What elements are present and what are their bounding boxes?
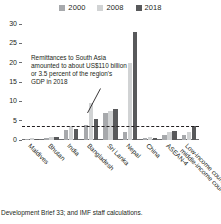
bar-group-china <box>140 24 160 140</box>
y-tick-label-25: 25 <box>9 39 17 47</box>
bar-asean-4-2018 <box>172 131 176 140</box>
bar-low-and-middle-income-2000 <box>182 135 186 140</box>
legend-swatch-2000 <box>59 5 65 11</box>
legend-label-2018: 2018 <box>145 4 162 12</box>
bar-group-low-and-middle-income <box>179 24 199 140</box>
bar-asean-4-2008 <box>167 132 171 140</box>
bar-bhutan-2018 <box>54 137 58 140</box>
x-label-slot-asean-4: ASEAN-4 <box>160 141 180 211</box>
x-label-slot-bhutan: Bhutan <box>42 141 62 211</box>
y-tick-25: 25 <box>0 39 22 47</box>
bar-china-2000 <box>143 138 147 140</box>
legend-swatch-2008 <box>97 5 103 11</box>
y-tick-label-5: 5 <box>13 117 17 125</box>
bar-bhutan-2008 <box>49 137 53 140</box>
chart-legend: 2000 2008 2018 <box>0 4 221 12</box>
annotation-line-4: GDP in 2018 <box>31 78 137 86</box>
bar-low-and-middle-income-2018 <box>192 126 196 140</box>
bar-maldives-2008 <box>30 138 34 140</box>
x-label-slot-low-and-middle-income: Low-income countries andmiddle-income co… <box>179 141 199 211</box>
y-tick-5: 5 <box>0 117 22 125</box>
legend-label-2008: 2008 <box>106 4 123 12</box>
source-note: Development Brief 33; and IMF staff calc… <box>1 209 201 217</box>
chart-annotation: Remittances to South Asia amounted to ab… <box>31 54 137 86</box>
x-label-slot-nepal: Nepal <box>120 141 140 211</box>
y-tick-label-10: 10 <box>9 97 17 105</box>
x-label-slot-china: China <box>140 141 160 211</box>
legend-item-2018: 2018 <box>136 4 162 12</box>
y-tick-10: 10 <box>0 97 22 105</box>
bar-china-2008 <box>148 137 152 140</box>
annotation-line-2: amounted to about US$110 billion <box>31 62 137 70</box>
bar-sri-lanka-2008 <box>108 111 112 140</box>
annotation-line-1: Remittances to South Asia <box>31 54 137 62</box>
bar-nepal-2000 <box>123 132 127 140</box>
x-label-slot-sri-lanka: Sri Lanka <box>101 141 121 211</box>
bar-bhutan-2000 <box>44 138 48 140</box>
x-label-slot-india: India <box>61 141 81 211</box>
y-tick-20: 20 <box>0 59 22 67</box>
x-axis-label-low-and-middle-income: Low-income countries andmiddle-income co… <box>179 142 221 207</box>
y-tick-label-15: 15 <box>9 78 17 86</box>
bar-maldives-2000 <box>25 139 29 140</box>
bar-sri-lanka-2018 <box>113 109 117 140</box>
bar-maldives-2018 <box>35 139 39 140</box>
bar-bangladesh-2018 <box>94 119 98 140</box>
bar-india-2008 <box>69 126 73 140</box>
y-tick-0: 0 <box>0 136 22 144</box>
x-axis-label-india: India <box>66 142 81 157</box>
legend-item-2000: 2000 <box>59 4 85 12</box>
bar-low-and-middle-income-2008 <box>187 132 191 140</box>
bar-bangladesh-2008 <box>89 103 93 140</box>
y-tick-label-30: 30 <box>9 20 17 28</box>
y-tick-30: 30 <box>0 20 22 28</box>
remittances-bar-chart-figure: 2000 2008 2018 30 25 20 15 <box>0 0 221 224</box>
legend-swatch-2018 <box>136 5 142 11</box>
y-tick-label-20: 20 <box>9 59 17 67</box>
bar-china-2018 <box>153 138 157 140</box>
bar-asean-4-2000 <box>162 135 166 140</box>
bar-group-asean-4 <box>160 24 180 140</box>
x-axis-labels: Maldives Bhutan India Bangladesh Sri Lan… <box>22 141 199 211</box>
y-tick-15: 15 <box>0 78 22 86</box>
annotation-line-3: or 3.5 percent of the region's <box>31 70 137 78</box>
bar-india-2000 <box>64 130 68 140</box>
bar-india-2018 <box>74 129 78 140</box>
legend-item-2008: 2008 <box>97 4 123 12</box>
legend-label-2000: 2000 <box>68 4 85 12</box>
y-tick-label-0: 0 <box>13 136 17 144</box>
x-label-slot-maldives: Maldives <box>22 141 42 211</box>
x-label-slot-bangladesh: Bangladesh <box>81 141 101 211</box>
reference-line-3-5-percent <box>22 126 199 127</box>
